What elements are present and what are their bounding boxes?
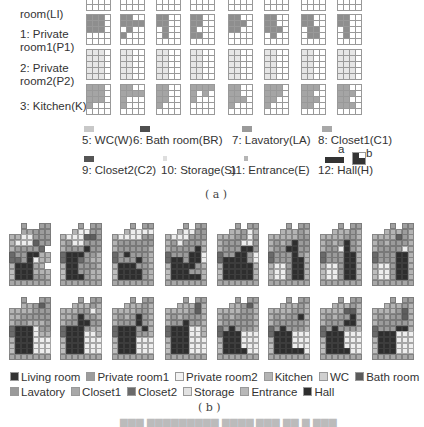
mask-cell <box>320 74 326 80</box>
legend-swatch <box>183 387 192 396</box>
row-label: room(LI) <box>20 8 63 21</box>
floor-plan <box>9 297 51 360</box>
plan-cell <box>253 354 259 360</box>
mask-cell <box>175 74 181 80</box>
legend-swatch <box>264 372 273 381</box>
floor-plan <box>165 297 207 360</box>
mask-cell <box>320 39 326 45</box>
hall-variant-label: b <box>366 147 372 159</box>
plan-cell <box>148 280 154 286</box>
legend-item: Bath room <box>355 370 419 385</box>
legend-label: Living room <box>21 371 80 383</box>
plan-cell <box>253 280 259 286</box>
mask-cell <box>283 5 289 11</box>
floor-plan <box>372 297 414 360</box>
room-mask-grid <box>86 84 111 115</box>
floor-plan <box>9 223 51 286</box>
mask-cell <box>356 109 362 115</box>
room-mask-grid <box>120 14 145 45</box>
plan-cell <box>96 280 102 286</box>
mask-cell <box>105 74 111 80</box>
part-a-sublabel: ( a ) <box>205 188 227 201</box>
legend-item: Private room2 <box>175 370 258 385</box>
mask-cell <box>105 109 111 115</box>
legend-label: 11: Entrance(E) <box>230 164 310 176</box>
legend-label: 10: Storage(S) <box>161 164 236 176</box>
room-mask-grid <box>264 0 289 11</box>
legend-label: Hall <box>314 386 334 398</box>
mask-cell <box>139 109 145 115</box>
legend-item: Hall <box>303 385 334 400</box>
plan-cell <box>45 354 51 360</box>
mask-cell <box>356 39 362 45</box>
legend-label: Entrance <box>251 386 297 398</box>
room-mask-grid <box>337 49 362 80</box>
legend-item: Closet1 <box>71 385 121 400</box>
room-mask-grid <box>337 84 362 115</box>
hall-swatch-b <box>352 152 366 165</box>
part-b-sublabel: ( b ) <box>198 401 221 414</box>
floor-plan <box>268 297 310 360</box>
room-mask-grid <box>301 84 326 115</box>
floor-plan <box>372 223 414 286</box>
room-mask-grid <box>264 49 289 80</box>
legend-swatch <box>71 387 80 396</box>
room-mask-grid <box>120 0 145 11</box>
room-mask-grid <box>156 49 181 80</box>
legend-swatch <box>322 126 332 132</box>
mask-cell <box>175 39 181 45</box>
room-mask-grid <box>228 84 253 115</box>
legend-swatch <box>319 372 328 381</box>
floor-plan <box>320 223 362 286</box>
room-mask-grid <box>156 0 181 11</box>
legend-item: Private room1 <box>86 370 169 385</box>
mask-cell <box>209 39 215 45</box>
legend-swatch <box>86 372 95 381</box>
floor-plan <box>165 223 207 286</box>
room-mask-grid <box>264 84 289 115</box>
mask-cell <box>209 74 215 80</box>
floor-plan <box>320 297 362 360</box>
mask-cell <box>209 109 215 115</box>
legend-label: 8: Closet1(C1) <box>318 134 392 146</box>
plan-cell <box>201 280 207 286</box>
floor-plan <box>60 223 102 286</box>
mask-cell <box>209 5 215 11</box>
legend-label: Storage <box>194 386 234 398</box>
room-mask-grid <box>190 49 215 80</box>
room-mask-grid <box>301 49 326 80</box>
room-mask-grid <box>190 0 215 11</box>
floor-plan <box>217 223 259 286</box>
room-mask-grid <box>156 14 181 45</box>
plan-cell <box>201 354 207 360</box>
hall-variant-label: a <box>338 143 344 155</box>
legend-item: Living room <box>10 370 80 385</box>
figure-caption-partial: ▆▆▆ ▆▆▆▆▆▆▆▆▆ ▆▆▆▆ ▆▆▆ ▆▆ ▆ ▆▆▆ <box>120 416 337 427</box>
legend-label: Lavatory <box>21 386 65 398</box>
floor-plan <box>60 297 102 360</box>
legend-label: WC <box>330 371 349 383</box>
plan-cell <box>356 354 362 360</box>
legend-label: Bath room <box>366 371 419 383</box>
mask-cell <box>320 5 326 11</box>
floor-plan <box>112 223 154 286</box>
row-label: 2: Privateroom2(P2) <box>20 62 74 88</box>
legend-label: 7: Lavatory(LA) <box>232 134 311 146</box>
room-mask-grid <box>190 84 215 115</box>
legend-label: 6: Bath room(BR) <box>133 134 222 146</box>
room-mask-grid <box>86 14 111 45</box>
legend-label: 9: Closet2(C2) <box>82 164 156 176</box>
room-mask-grid <box>337 0 362 11</box>
mask-cell <box>356 5 362 11</box>
legend-swatch <box>303 387 312 396</box>
mask-cell <box>105 39 111 45</box>
legend-label: 5: WC(W) <box>82 134 132 146</box>
legend-swatch <box>10 372 19 381</box>
mask-cell <box>175 109 181 115</box>
room-mask-grid <box>86 0 111 11</box>
room-mask-grid <box>301 0 326 11</box>
legend-swatch <box>240 387 249 396</box>
legend-swatch <box>175 372 184 381</box>
legend-swatch <box>127 387 136 396</box>
legend-label: Closet1 <box>82 386 121 398</box>
